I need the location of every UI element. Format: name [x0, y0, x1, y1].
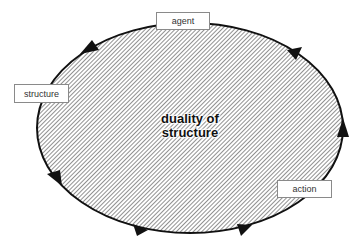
title-line-1: duality of [140, 112, 240, 126]
arrow-icon [47, 170, 62, 186]
action-label: action [277, 180, 332, 198]
structure-label: structure [14, 84, 69, 103]
title-line-2: structure [140, 126, 240, 140]
diagram-title: duality of structure [140, 112, 240, 140]
arrow-icon [237, 224, 252, 236]
agent-label: agent [156, 12, 210, 30]
